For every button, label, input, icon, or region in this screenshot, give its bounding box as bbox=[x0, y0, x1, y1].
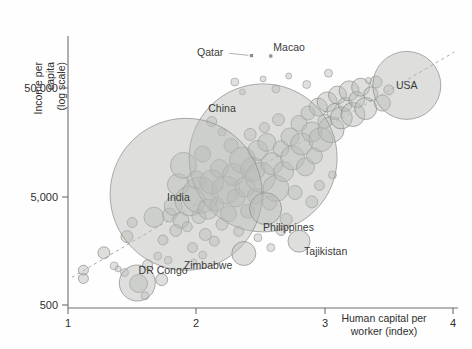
x-tick-label-3: 3 bbox=[322, 317, 328, 329]
point-label-qatar: Qatar bbox=[197, 46, 224, 58]
scatter-chart: QatarMacaoUSAChinaIndiaPhilippinesTajiki… bbox=[0, 0, 472, 349]
bubble-point-macao bbox=[269, 54, 272, 57]
x-tick-label-4: 4 bbox=[450, 317, 456, 329]
bubble-point bbox=[325, 69, 333, 77]
bubble-point bbox=[286, 73, 292, 79]
labeled-points-group: QatarMacaoUSAChinaIndiaPhilippinesTajiki… bbox=[110, 41, 441, 301]
bubble-point-philippines bbox=[250, 193, 282, 225]
y-tick-label-5000: 5,000 bbox=[30, 191, 58, 203]
x-tick-label-1: 1 bbox=[65, 317, 71, 329]
bubble-point-zimbabwe bbox=[232, 242, 256, 266]
bubble-point bbox=[365, 77, 371, 83]
point-label-china: China bbox=[208, 102, 236, 114]
y-axis-title-line3: (log scale) bbox=[55, 62, 67, 110]
x-axis-title-line2: worker (index) bbox=[350, 325, 418, 337]
point-label-india: India bbox=[167, 191, 190, 203]
x-tick-label-2: 2 bbox=[193, 317, 199, 329]
bubble-point bbox=[260, 76, 266, 82]
y-axis-title-line1: Income per bbox=[32, 62, 44, 115]
y-tick-label-500: 500 bbox=[40, 299, 58, 311]
point-label-macao: Macao bbox=[273, 41, 305, 53]
bubble-point bbox=[78, 274, 88, 284]
point-label-zimbabwe: Zimbabwe bbox=[184, 259, 233, 271]
bubble-point-qatar bbox=[250, 54, 253, 57]
x-axis-title-line1: Human capital per bbox=[341, 312, 427, 324]
plot-canvas: QatarMacaoUSAChinaIndiaPhilippinesTajiki… bbox=[0, 0, 472, 349]
point-label-philippines: Philippines bbox=[263, 221, 314, 233]
leader-line bbox=[229, 53, 248, 55]
bubble-point bbox=[231, 78, 239, 86]
point-label-usa: USA bbox=[396, 79, 418, 91]
bubble-point bbox=[115, 266, 121, 272]
point-label-tajikistan: Tajikistan bbox=[304, 245, 347, 257]
y-axis-title: Income per capita (log scale) bbox=[32, 62, 67, 115]
bubble-point bbox=[303, 81, 311, 89]
bubble-point bbox=[98, 247, 110, 259]
x-axis-title: Human capital per worker (index) bbox=[341, 312, 427, 337]
bubble-point bbox=[267, 244, 275, 252]
bubble-point bbox=[254, 234, 262, 242]
point-label-dr-congo: DR Congo bbox=[139, 264, 188, 276]
